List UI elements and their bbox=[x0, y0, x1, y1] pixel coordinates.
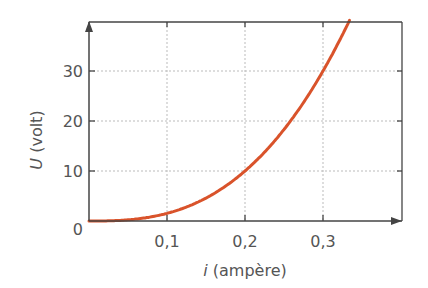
x-axis-arrow-icon bbox=[391, 217, 402, 225]
y-tick-label: 20 bbox=[63, 112, 83, 131]
y-tick-label: 30 bbox=[63, 62, 83, 81]
chart: 0,10,20,30102030 U (volt) i (ampère) bbox=[0, 0, 428, 288]
axes bbox=[85, 21, 402, 225]
y-axis-label: U (volt) bbox=[27, 110, 46, 169]
x-axis-unit: (ampère) bbox=[208, 261, 287, 280]
tick-labels: 0,10,20,30102030 bbox=[63, 62, 336, 251]
y-axis-variable: U bbox=[27, 158, 46, 170]
y-tick-label: 0 bbox=[73, 220, 83, 239]
grid-lines bbox=[89, 22, 402, 221]
x-tick-label: 0,2 bbox=[232, 232, 257, 251]
x-tick-label: 0,1 bbox=[154, 232, 179, 251]
x-axis-label: i (ampère) bbox=[203, 261, 286, 280]
y-tick-label: 10 bbox=[63, 162, 83, 181]
x-tick-label: 0,3 bbox=[310, 232, 335, 251]
y-axis-unit: (volt) bbox=[27, 110, 46, 158]
